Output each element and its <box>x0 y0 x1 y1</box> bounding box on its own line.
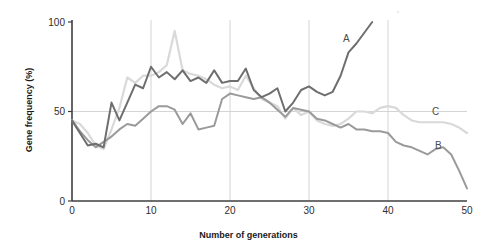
axes-group: 050100 01020304050 <box>48 17 473 217</box>
series-label-c: C <box>432 106 439 117</box>
series-line-b <box>72 94 467 189</box>
x-tick-label-40: 40 <box>382 205 394 216</box>
series-label-a: A <box>343 33 350 44</box>
gridlines-group <box>72 20 467 201</box>
x-tick-label-50: 50 <box>461 205 473 216</box>
y-tick-label-100: 100 <box>48 17 65 28</box>
y-tick-label-0: 0 <box>59 196 65 207</box>
series-lines-group <box>72 22 467 188</box>
y-ticks-group: 050100 <box>48 17 72 207</box>
series-line-c <box>72 31 467 149</box>
x-tick-label-10: 10 <box>145 205 157 216</box>
y-axis-title: Gene frequency (%) <box>24 30 34 190</box>
x-tick-label-30: 30 <box>303 205 315 216</box>
plot-area: 050100 01020304050 <box>0 0 497 250</box>
series-line-a <box>72 22 372 147</box>
x-ticks-group: 01020304050 <box>69 205 473 216</box>
gene-frequency-line-chart: 050100 01020304050 Number of generations… <box>0 0 497 250</box>
x-tick-label-20: 20 <box>224 205 236 216</box>
series-label-b: B <box>435 140 442 151</box>
y-tick-label-50: 50 <box>54 106 66 117</box>
scan-artifact-dot <box>397 11 399 13</box>
x-axis-title: Number of generations <box>0 230 497 240</box>
x-tick-label-0: 0 <box>69 205 75 216</box>
